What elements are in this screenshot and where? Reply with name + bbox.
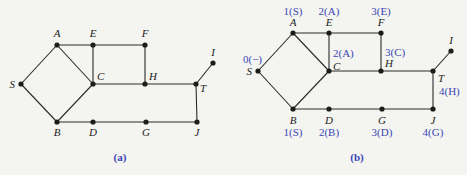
node-t bbox=[193, 81, 198, 86]
node-label-b: B bbox=[290, 114, 297, 126]
edge-s-b bbox=[21, 84, 57, 122]
bfs-label-a: 1(S) bbox=[284, 5, 303, 18]
node-s bbox=[18, 81, 23, 86]
node-label-e: E bbox=[89, 27, 97, 39]
node-label-a: A bbox=[289, 16, 297, 28]
node-e bbox=[326, 30, 331, 35]
edge-a-c bbox=[57, 45, 93, 84]
edge-t-j bbox=[196, 84, 197, 122]
graph-canvas: AEFSCHTIBDGJ(a) A1(S)E2(A)F3(E)S0(−)C2(A… bbox=[0, 0, 467, 175]
node-label-c: C bbox=[97, 70, 105, 82]
bfs-label-s: 0(−) bbox=[243, 53, 262, 66]
node-j bbox=[194, 119, 199, 124]
node-h bbox=[378, 68, 383, 73]
node-j bbox=[430, 106, 435, 111]
edge-a-c bbox=[293, 33, 329, 71]
bfs-label-e: 2(A) bbox=[319, 5, 340, 18]
node-i bbox=[210, 60, 215, 65]
node-t bbox=[430, 68, 435, 73]
node-label-h: H bbox=[148, 70, 158, 82]
node-label-s: S bbox=[247, 65, 253, 77]
node-label-j: J bbox=[431, 114, 437, 126]
node-f bbox=[378, 30, 383, 35]
node-label-g: G bbox=[142, 126, 150, 138]
node-label-g: G bbox=[378, 114, 386, 126]
node-f bbox=[142, 42, 147, 47]
node-c bbox=[326, 68, 331, 73]
caption-a: (a) bbox=[114, 151, 127, 164]
edge-s-a bbox=[21, 45, 57, 84]
bfs-label-b: 1(S) bbox=[284, 126, 303, 139]
bfs-label-f: 3(E) bbox=[371, 5, 391, 18]
node-s bbox=[255, 68, 260, 73]
node-c bbox=[90, 81, 95, 86]
node-label-b: B bbox=[54, 126, 61, 138]
node-a bbox=[290, 30, 295, 35]
bfs-label-t: 4(H) bbox=[439, 85, 460, 98]
node-a bbox=[54, 42, 59, 47]
graph-b-bfs-labeled: A1(S)E2(A)F3(E)S0(−)C2(A)H3(C)T4(H)IB1(S… bbox=[243, 5, 460, 164]
node-i bbox=[448, 48, 453, 53]
edge-b-c bbox=[57, 84, 93, 122]
node-label-e: E bbox=[325, 16, 333, 28]
bfs-label-j: 4(G) bbox=[423, 126, 444, 139]
edge-b-c bbox=[293, 71, 329, 109]
bfs-label-g: 3(D) bbox=[372, 126, 393, 139]
node-h bbox=[142, 81, 147, 86]
node-label-f: F bbox=[141, 27, 149, 39]
bfs-label-d: 2(B) bbox=[319, 126, 340, 139]
node-d bbox=[326, 106, 331, 111]
node-label-c: C bbox=[333, 60, 341, 72]
node-label-d: D bbox=[88, 126, 97, 138]
graph-a: AEFSCHTIBDGJ(a) bbox=[10, 27, 217, 164]
node-label-d: D bbox=[324, 114, 333, 126]
node-label-i: I bbox=[210, 46, 216, 58]
edge-t-i bbox=[196, 63, 213, 84]
edge-t-i bbox=[433, 51, 451, 71]
node-label-t: T bbox=[438, 72, 445, 84]
bfs-label-h: 3(C) bbox=[385, 46, 406, 59]
node-b bbox=[54, 119, 59, 124]
node-b bbox=[290, 106, 295, 111]
node-label-s: S bbox=[10, 78, 16, 90]
node-e bbox=[90, 42, 95, 47]
node-label-f: F bbox=[377, 16, 385, 28]
node-label-a: A bbox=[53, 27, 61, 39]
bfs-label-c: 2(A) bbox=[333, 47, 354, 60]
node-label-i: I bbox=[448, 34, 454, 46]
node-label-t: T bbox=[200, 82, 207, 94]
caption-b: (b) bbox=[350, 151, 364, 164]
node-g bbox=[143, 119, 148, 124]
node-d bbox=[90, 119, 95, 124]
edge-s-a bbox=[258, 33, 293, 71]
edge-s-b bbox=[258, 71, 293, 109]
node-g bbox=[379, 106, 384, 111]
node-label-j: J bbox=[195, 126, 201, 138]
node-label-h: H bbox=[384, 57, 394, 69]
